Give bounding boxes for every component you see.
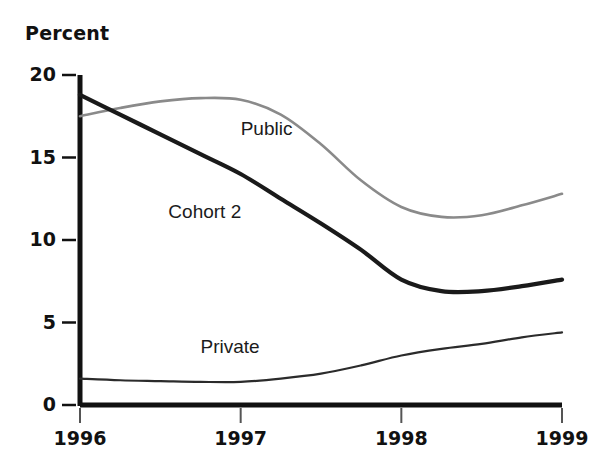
series-label-private: Private bbox=[201, 336, 260, 358]
series-line-cohort-2 bbox=[80, 95, 562, 292]
x-tick-label: 1997 bbox=[201, 427, 281, 449]
percent-line-chart: Percent 05101520 1996199719981999 Public… bbox=[0, 0, 609, 469]
y-tick-label: 5 bbox=[12, 311, 56, 333]
series-label-cohort-2: Cohort 2 bbox=[168, 201, 241, 223]
y-tick-label: 15 bbox=[12, 146, 56, 168]
y-axis-tick-marks bbox=[62, 75, 76, 405]
chart-series-lines bbox=[80, 95, 562, 382]
y-tick-label: 0 bbox=[12, 393, 56, 415]
chart-plot-area bbox=[0, 0, 609, 469]
y-tick-label: 20 bbox=[12, 63, 56, 85]
y-tick-label: 10 bbox=[12, 228, 56, 250]
series-line-private bbox=[80, 332, 562, 382]
x-tick-label: 1996 bbox=[40, 427, 120, 449]
series-line-public bbox=[80, 98, 562, 218]
series-label-public: Public bbox=[241, 118, 293, 140]
x-axis-tick-marks bbox=[80, 408, 562, 423]
chart-axes bbox=[62, 75, 562, 423]
x-tick-label: 1999 bbox=[522, 427, 602, 449]
x-tick-label: 1998 bbox=[361, 427, 441, 449]
